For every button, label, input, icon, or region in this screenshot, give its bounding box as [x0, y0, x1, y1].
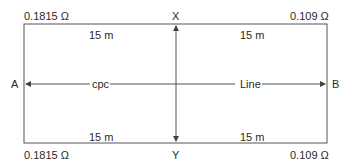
- bottom-right-resistance: 0.109 Ω: [290, 149, 329, 161]
- length-bottom-right: 15 m: [240, 131, 264, 143]
- length-top-left: 15 m: [89, 29, 113, 41]
- length-bottom-left: 15 m: [89, 131, 113, 143]
- line-label: Line: [239, 78, 262, 90]
- point-x-label: X: [172, 10, 179, 22]
- point-a-label: A: [11, 78, 18, 90]
- top-right-resistance: 0.109 Ω: [290, 10, 329, 22]
- bottom-left-resistance: 0.1815 Ω: [24, 149, 69, 161]
- cpc-label: cpc: [91, 78, 110, 90]
- length-top-right: 15 m: [240, 29, 264, 41]
- top-left-resistance: 0.1815 Ω: [24, 10, 69, 22]
- point-b-label: B: [332, 78, 339, 90]
- point-y-label: Y: [172, 149, 179, 161]
- circuit-diagram: [0, 0, 348, 167]
